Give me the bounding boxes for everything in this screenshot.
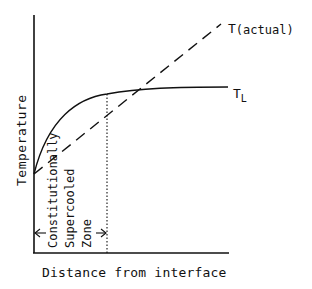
actual-label-suffix: (actual) [236, 23, 294, 37]
actual-temperature-label: T(actual) [228, 21, 294, 37]
liquidus-label-main: T [233, 86, 241, 101]
x-axis-label: Distance from interface [42, 265, 227, 280]
zone-label-line1: Constitutionally [46, 132, 60, 248]
constitutional-supercooling-diagram: Temperature Distance from interface T(ac… [0, 0, 312, 289]
liquidus-label: TL [233, 86, 247, 104]
zone-label-line2: Supercooled [63, 169, 77, 248]
liquidus-curve [34, 87, 228, 174]
liquidus-label-sub: L [241, 93, 247, 104]
y-axis-label: Temperature [14, 94, 29, 186]
actual-temperature-line [34, 24, 221, 174]
zone-label-line3: Zone [80, 219, 94, 248]
actual-label-main: T [228, 21, 236, 36]
